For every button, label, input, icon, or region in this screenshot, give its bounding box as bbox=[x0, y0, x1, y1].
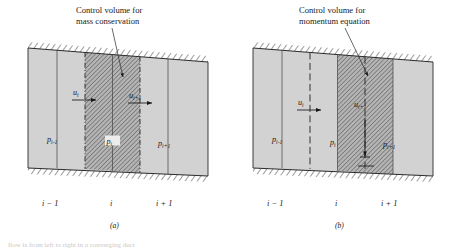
page-text-bleed: flow is from left to right in a convergi… bbox=[8, 241, 135, 249]
pressure-label-a-i-group: pi bbox=[105, 136, 120, 147]
annotation-b-line1: Control volume for bbox=[299, 5, 365, 15]
index-label-b-i: i bbox=[335, 199, 338, 208]
index-label-b-ip1: i + 1 bbox=[381, 199, 397, 208]
figure-container: ui ui+1 pi-1 pi pi+1 Control volume for … bbox=[0, 0, 450, 249]
caption-a: (a) bbox=[110, 221, 119, 230]
caption-b: (b) bbox=[335, 221, 344, 230]
annotation-a-line1: Control volume for bbox=[76, 5, 142, 15]
panel-b: ui ui+1 pi-1 pi pi+1 Control volume for … bbox=[253, 5, 433, 230]
index-label-a-i: i bbox=[110, 199, 113, 208]
index-label-a-im1: i − 1 bbox=[42, 199, 58, 208]
annotation-a-line2: mass conservation bbox=[76, 16, 140, 26]
figure-svg: ui ui+1 pi-1 pi pi+1 Control volume for … bbox=[0, 0, 450, 249]
index-label-a-ip1: i + 1 bbox=[156, 199, 172, 208]
annotation-b-line2: momentum equation bbox=[299, 16, 371, 26]
panel-a: ui ui+1 pi-1 pi pi+1 Control volume for … bbox=[28, 5, 208, 230]
index-label-b-im1: i − 1 bbox=[267, 199, 283, 208]
